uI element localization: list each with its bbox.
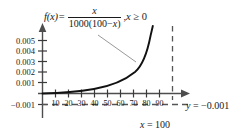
annot-y-value: = −0.001 (190, 100, 229, 111)
formula-denominator: 1000(100−x) (68, 18, 122, 30)
y-tick-label-0.001: 0.001 (2, 78, 35, 88)
function-formula: f(x) = x 1000(100−x) ,x ≥ 0 (44, 6, 147, 29)
y-axis (39, 23, 47, 118)
formula-condition: ,x ≥ 0 (123, 12, 147, 23)
annot-x-value: = 100 (144, 119, 170, 130)
denominator-suffix: ) (117, 18, 120, 29)
formula-fraction: x 1000(100−x) (68, 6, 122, 29)
leader-line (98, 35, 136, 62)
y-tick-label-0.003: 0.003 (2, 57, 35, 67)
y-tick-label-0.004: 0.004 (2, 46, 35, 56)
function-curve (43, 26, 153, 94)
horizontal-asymptote-label: y = −0.001 (186, 100, 229, 111)
formula-equals: = (59, 12, 65, 23)
x-tick-label-90: 90 (151, 99, 168, 108)
formula-numerator: x (86, 6, 102, 17)
condition-relation: ≥ 0 (133, 11, 147, 22)
denominator-prefix: 1000(100 (69, 18, 107, 29)
condition-variable: x (126, 11, 131, 22)
y-tick-label-neg0.001: −0.001 (0, 100, 35, 110)
figure-container: f(x) = x 1000(100−x) ,x ≥ 0 0.005 0.004 … (0, 0, 239, 136)
y-tick-label-0.005: 0.005 (2, 36, 35, 46)
formula-lhs: f(x) (44, 12, 58, 23)
vertical-asymptote-label: x = 100 (140, 119, 170, 130)
y-tick-label-0.002: 0.002 (2, 67, 35, 77)
